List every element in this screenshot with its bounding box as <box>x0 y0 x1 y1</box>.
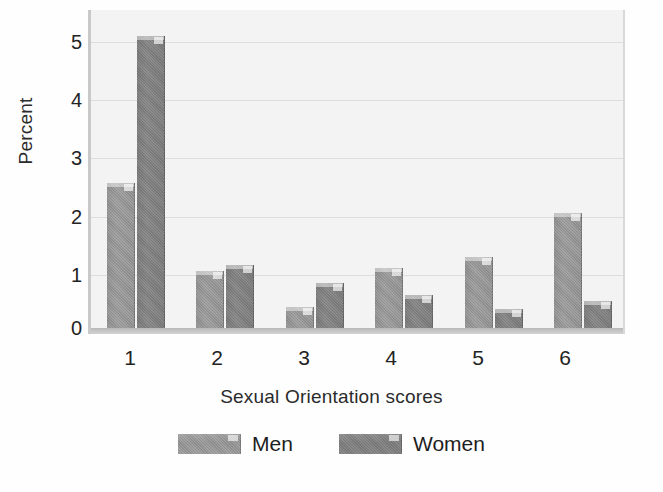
legend-label-women: Women <box>413 432 485 456</box>
bar-men-4[interactable] <box>375 268 403 330</box>
x-axis-baseline <box>88 328 625 334</box>
bar-gloss <box>571 214 580 221</box>
y-tick-label-0: 0 <box>58 317 82 340</box>
y-tick-label-3: 3 <box>58 147 82 170</box>
bar-body <box>107 183 135 330</box>
bar-gloss <box>213 272 222 279</box>
y-tick-label-1: 1 <box>58 264 82 287</box>
x-tick-label-3: 3 <box>284 346 324 370</box>
bar-men-5[interactable] <box>465 257 493 330</box>
y-tick-label-5: 5 <box>58 31 82 54</box>
gridline-3 <box>91 158 623 159</box>
bar-chart-figure: Percent 5 4 3 2 1 0 1 2 3 4 5 6 Sexual O… <box>0 0 663 492</box>
bar-men-6[interactable] <box>554 213 582 330</box>
bar-body <box>226 265 254 330</box>
x-tick-label-4: 4 <box>371 346 411 370</box>
x-tick-label-6: 6 <box>545 346 585 370</box>
bar-body <box>495 309 523 330</box>
bar-women-3[interactable] <box>316 283 344 330</box>
bar-gloss <box>243 266 252 273</box>
bar-group-6 <box>554 10 612 330</box>
y-axis-tick-labels: 5 4 3 2 1 0 <box>52 0 82 492</box>
gridline-4 <box>91 100 623 101</box>
y-axis-title: Percent <box>15 61 37 201</box>
bar-body <box>375 268 403 330</box>
bar-women-6[interactable] <box>584 301 612 330</box>
bar-women-4[interactable] <box>405 295 433 330</box>
x-axis-title: Sexual Orientation scores <box>0 386 663 408</box>
bar-women-5[interactable] <box>495 309 523 330</box>
bar-men-1[interactable] <box>107 183 135 330</box>
legend-swatch-women-icon <box>339 434 402 454</box>
legend-label-men: Men <box>252 432 293 456</box>
bar-gloss <box>512 310 521 317</box>
plot-area <box>88 10 625 334</box>
bar-body <box>137 36 165 330</box>
bar-group-2 <box>196 10 254 330</box>
chart-legend: Men Women <box>0 432 663 456</box>
bar-body <box>286 307 314 330</box>
x-tick-label-2: 2 <box>197 346 237 370</box>
bar-body <box>405 295 433 330</box>
bar-body <box>465 257 493 330</box>
bar-gloss <box>333 284 342 291</box>
bar-group-4 <box>375 10 433 330</box>
bar-body <box>316 283 344 330</box>
bar-group-5 <box>465 10 523 330</box>
gridline-2 <box>91 217 623 218</box>
x-tick-label-5: 5 <box>458 346 498 370</box>
bar-group-1 <box>107 10 165 330</box>
bar-gloss <box>601 302 610 309</box>
bar-gloss <box>422 296 431 303</box>
bar-women-2[interactable] <box>226 265 254 330</box>
bar-body <box>196 271 224 330</box>
gridline-5 <box>91 42 623 43</box>
legend-item-women[interactable]: Women <box>339 432 485 456</box>
bar-body <box>584 301 612 330</box>
y-tick-label-4: 4 <box>58 89 82 112</box>
bar-men-3[interactable] <box>286 307 314 330</box>
legend-swatch-men-icon <box>178 434 241 454</box>
bar-men-2[interactable] <box>196 271 224 330</box>
bar-gloss <box>482 258 491 265</box>
legend-item-men[interactable]: Men <box>178 432 293 456</box>
plot-inner <box>91 10 623 334</box>
y-tick-label-2: 2 <box>58 206 82 229</box>
bar-gloss <box>303 308 312 315</box>
gridline-1 <box>91 275 623 276</box>
bar-gloss <box>392 269 401 276</box>
bar-women-1[interactable] <box>137 36 165 330</box>
bar-group-3 <box>286 10 344 330</box>
x-tick-label-1: 1 <box>110 346 150 370</box>
bar-gloss <box>154 37 163 44</box>
bar-gloss <box>124 184 133 191</box>
bar-body <box>554 213 582 330</box>
